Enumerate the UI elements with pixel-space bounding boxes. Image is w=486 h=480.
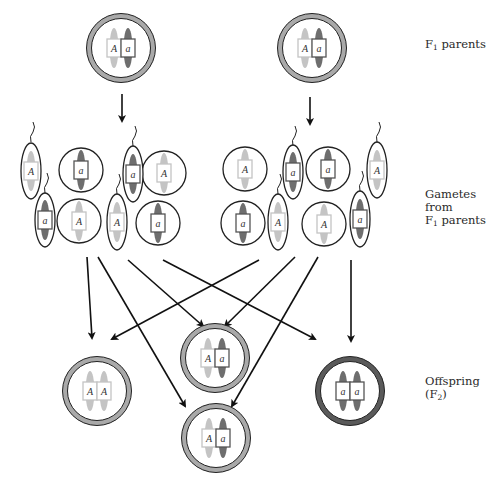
egg-gamete: A (142, 151, 186, 195)
egg-gamete: A (223, 147, 267, 191)
svg-text:a: a (43, 215, 48, 226)
svg-text:a: a (355, 386, 360, 397)
svg-text:a: a (220, 353, 225, 364)
egg-gamete: A (302, 202, 346, 246)
allele-label: a (126, 43, 131, 54)
svg-text:a: a (326, 164, 331, 175)
svg-text:A: A (160, 168, 168, 179)
svg-text:a: a (241, 218, 246, 229)
sperm-gamete: A (367, 122, 387, 198)
svg-text:A: A (27, 166, 35, 177)
sperm-gamete: A (21, 122, 41, 199)
svg-text:A: A (274, 217, 282, 228)
egg-gamete: a (136, 201, 180, 245)
egg-gamete: a (221, 201, 265, 245)
allele-label: a (317, 43, 322, 54)
sperm-gamete: a (123, 126, 143, 202)
svg-text:a: a (221, 433, 226, 444)
f1-parents-label: F1 parents (425, 38, 486, 54)
svg-text:A: A (320, 219, 328, 230)
svg-text:a: a (131, 169, 136, 180)
offspring-AA: A A (63, 357, 132, 426)
egg-gamete: a (306, 147, 350, 191)
svg-text:A: A (373, 165, 381, 176)
offspring-Aa: A a (182, 404, 251, 473)
svg-text:A: A (86, 386, 94, 397)
svg-text:A: A (113, 217, 121, 228)
svg-text:a: a (156, 218, 161, 229)
svg-text:A: A (241, 164, 249, 175)
egg-gamete: a (59, 148, 103, 192)
parent-right-cell: A a (278, 14, 347, 83)
sperm-gamete: a (283, 126, 303, 199)
allele-label: A (301, 43, 309, 54)
allele-label: A (110, 43, 118, 54)
offspring-label: Offspring (F2) (425, 375, 480, 404)
genetics-cross-diagram: A a A a a A A a A a (0, 0, 486, 480)
sperm-gamete: a (350, 171, 370, 247)
svg-text:A: A (100, 386, 108, 397)
gametes-label: Gametes from F1 parents (425, 188, 486, 230)
svg-text:a: a (291, 167, 296, 178)
parent-left-cell: A a (87, 14, 156, 83)
offspring-aa: a a (316, 357, 385, 426)
svg-text:A: A (75, 216, 83, 227)
offspring-Aa: A a (181, 324, 250, 393)
svg-text:A: A (204, 353, 212, 364)
svg-text:a: a (358, 214, 363, 225)
egg-gamete: A (57, 199, 101, 243)
svg-text:a: a (79, 165, 84, 176)
svg-text:A: A (205, 433, 213, 444)
svg-text:a: a (341, 386, 346, 397)
